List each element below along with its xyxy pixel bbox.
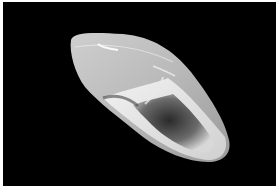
photo-frame [3,2,276,186]
shell-photo [3,2,276,186]
